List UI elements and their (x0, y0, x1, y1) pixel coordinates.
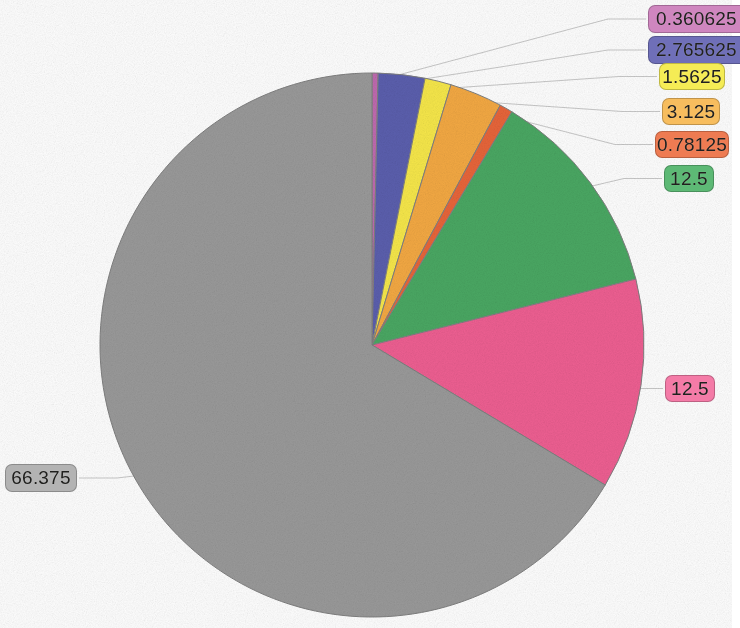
data-label-text: 0.78125 (657, 135, 727, 154)
leader-line (584, 179, 662, 188)
data-label-0: 0.360625 (648, 5, 740, 33)
data-label-4: 0.78125 (655, 131, 729, 158)
data-label-7: 66.375 (5, 464, 77, 492)
data-label-text: 2.765625 (656, 40, 737, 59)
data-label-text: 66.375 (11, 468, 70, 487)
pie-slices-group[interactable] (100, 73, 644, 617)
data-label-text: 0.360625 (656, 9, 737, 28)
data-label-3: 3.125 (662, 98, 720, 125)
data-label-text: 3.125 (667, 102, 716, 121)
leader-line (436, 77, 657, 90)
data-label-5: 12.5 (664, 165, 714, 192)
data-label-text: 1.5625 (662, 67, 721, 86)
data-label-2: 1.5625 (659, 63, 725, 90)
data-label-1: 2.765625 (648, 36, 740, 64)
data-label-text: 12.5 (671, 379, 709, 398)
data-label-text: 12.5 (670, 169, 708, 188)
data-label-6: 12.5 (665, 375, 715, 402)
leader-line (401, 50, 646, 83)
